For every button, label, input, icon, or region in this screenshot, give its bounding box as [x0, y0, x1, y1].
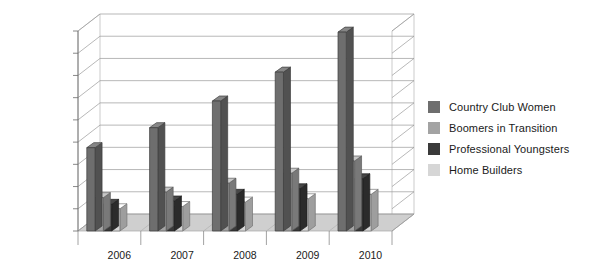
legend-item-label: Home Builders [449, 164, 522, 176]
bar-side [283, 67, 290, 231]
x-axis-tick-label: 2008 [233, 249, 256, 261]
x-axis-tick-label: 2010 [359, 249, 382, 261]
legend-item-label: Boomers in Transition [449, 122, 557, 134]
bar-side [166, 187, 173, 231]
bar [212, 96, 227, 231]
bar-side [229, 178, 236, 231]
legend-item[interactable]: Home Builders [428, 159, 603, 180]
bar-side [300, 184, 307, 231]
bar [150, 123, 165, 231]
bar-side [112, 199, 119, 231]
legend-item-label: Professional Youngsters [449, 143, 569, 155]
y-axis: 020,00040,00060,00080,000100,000120,0001… [0, 0, 70, 276]
bar-side [174, 196, 181, 231]
legend-item[interactable]: Boomers in Transition [428, 117, 603, 138]
bar-side [158, 123, 165, 231]
x-axis-tick-label: 2006 [108, 249, 131, 261]
bar-front [150, 128, 158, 231]
bar-front [338, 32, 346, 231]
bar-side [95, 143, 102, 231]
legend-swatch [428, 122, 440, 134]
bar-side [237, 189, 244, 231]
bar-chart: 020,00040,00060,00080,000100,000120,0001… [0, 0, 603, 276]
bar-side [371, 189, 378, 231]
legend-swatch [428, 164, 440, 176]
bar-front [87, 148, 95, 231]
bar-side [308, 194, 315, 231]
bar [338, 27, 353, 231]
bar-front [275, 72, 283, 231]
legend-swatch [428, 101, 440, 113]
x-axis-tick-label: 2009 [296, 249, 319, 261]
bar-side [221, 96, 228, 231]
bar-side [346, 27, 353, 231]
x-axis-tick-label: 2007 [170, 249, 193, 261]
legend-swatch [428, 143, 440, 155]
bar [275, 67, 290, 231]
bar-side [292, 168, 299, 231]
legend-item[interactable]: Professional Youngsters [428, 138, 603, 159]
legend-item-label: Country Club Women [449, 101, 556, 113]
legend: Country Club WomenBoomers in TransitionP… [428, 96, 603, 180]
bar-side [246, 197, 253, 231]
bar-front [212, 101, 220, 231]
bar-side [355, 156, 362, 231]
bar [87, 143, 102, 231]
right-wall [392, 14, 414, 231]
bar-side [103, 193, 110, 231]
bar-side [363, 174, 370, 231]
legend-item[interactable]: Country Club Women [428, 96, 603, 117]
